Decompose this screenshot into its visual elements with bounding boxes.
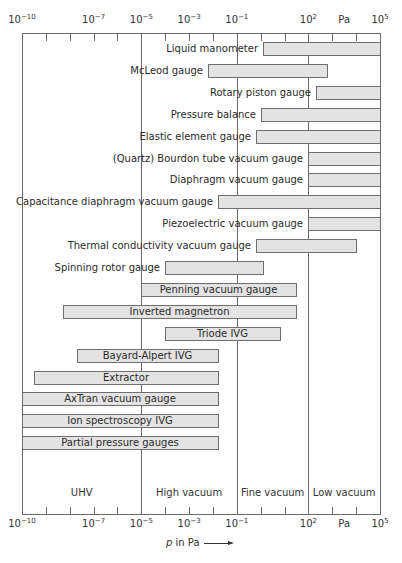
tick-label-exponent: −7 [95,517,105,525]
gauge-label: Partial pressure gauges [61,436,179,450]
vacuum-region-label: High vacuum [156,487,222,498]
tick-label-base: 10 [225,14,238,25]
top-axis-tick [356,34,357,41]
bottom-axis-tick [94,507,95,514]
bottom-tick-label: 10−1 [225,518,248,529]
gauge-range-bar [256,130,381,144]
top-tick-label: Pa [338,14,350,25]
vacuum-gauge-range-chart: 10−1010−710−510−310−1102Pa105 10−1010−71… [0,0,402,563]
tick-label-exponent: −1 [238,517,248,525]
tick-label-base: 10 [225,518,238,529]
top-tick-label: 10−10 [8,14,36,25]
tick-label-base: 10 [130,518,143,529]
top-axis-line [22,33,381,34]
gauge-label: Ion spectroscopy IVG [67,414,173,428]
bottom-axis-tick [46,507,47,514]
x-axis-arrow-shaft [204,543,229,544]
tick-label-exponent: 2 [313,517,317,525]
gauge-range-bar [308,173,381,187]
tick-label-base: 10 [300,518,313,529]
x-axis-arrow-icon [228,541,234,545]
bottom-axis-tick [356,507,357,514]
vacuum-region-label: UHV [71,487,93,498]
top-axis-tick [332,34,333,41]
bottom-tick-label: Pa [338,518,350,529]
gauge-label: McLeod gauge [130,64,203,78]
top-axis-tick [94,34,95,41]
gauge-range-bar [165,261,264,275]
gauge-range-bar [316,86,381,100]
tick-label-exponent: −5 [143,517,153,525]
bottom-axis-line [22,514,381,515]
x-axis-title-unit: in Pa [172,537,199,548]
tick-label-base: 10 [8,518,21,529]
gauge-range-bar [218,195,381,209]
tick-label-base: 10 [300,14,313,25]
gauge-label: Rotary piston gauge [210,86,311,100]
bottom-tick-label: 10−5 [130,518,153,529]
gauge-label: Thermal conductivity vacuum gauge [68,239,251,253]
x-axis-title: p in Pa [166,537,200,548]
tick-label-base: 10 [178,518,191,529]
tick-label-exponent: 5 [384,517,388,525]
tick-label-exponent: −5 [143,13,153,21]
tick-label-exponent: 5 [384,13,388,21]
top-tick-label: 10−7 [82,14,105,25]
tick-label-exponent: −10 [21,13,36,21]
tick-label-base: 10 [130,14,143,25]
bottom-tick-label: 102 [300,518,317,529]
top-tick-label: 10−1 [225,14,248,25]
tick-label-base: 10 [82,14,95,25]
top-tick-label: 10−3 [178,14,201,25]
gauge-label: Spinning rotor gauge [55,261,160,275]
tick-label-base: 10 [371,518,384,529]
gauge-label: (Quartz) Bourdon tube vacuum gauge [113,152,303,166]
gauge-range-bar [308,217,381,231]
bottom-axis-tick [261,507,262,514]
tick-label-base: 10 [82,518,95,529]
gauge-label: Triode IVG [197,327,248,341]
top-tick-label: 102 [300,14,317,25]
tick-label-exponent: −1 [238,13,248,21]
gauge-label: Penning vacuum gauge [160,283,278,297]
bottom-tick-label: 105 [371,518,388,529]
gauge-label: Bayard-Alpert IVG [103,349,193,363]
bottom-tick-label: 10−3 [178,518,201,529]
vacuum-region-label: Low vacuum [313,487,376,498]
gauge-range-bar [256,239,357,253]
gauge-label: Elastic element gauge [139,130,251,144]
bottom-axis-tick [213,507,214,514]
bottom-tick-label: 10−10 [8,518,36,529]
bottom-axis-tick [332,507,333,514]
tick-label-exponent: −3 [190,13,200,21]
gauge-label: Inverted magnetron [129,305,229,319]
top-axis-tick [117,34,118,41]
gauge-range-bar [208,64,328,78]
top-axis-tick [213,34,214,41]
tick-label-base: Pa [338,14,350,25]
bottom-tick-label: 10−7 [82,518,105,529]
tick-label-exponent: −3 [190,517,200,525]
tick-label-base: Pa [338,518,350,529]
tick-label-base: 10 [8,14,21,25]
top-axis-tick [189,34,190,41]
vacuum-region-label: Fine vacuum [241,487,304,498]
gauge-label: Diaphragm vacuum gauge [170,173,303,187]
gauge-range-bar [263,42,381,56]
top-axis-tick [70,34,71,41]
top-tick-label: 105 [371,14,388,25]
top-axis-tick [165,34,166,41]
tick-label-exponent: 2 [313,13,317,21]
bottom-axis-tick [189,507,190,514]
bottom-axis-tick [70,507,71,514]
gauge-range-bar [261,108,381,122]
region-divider-line [308,33,309,514]
tick-label-base: 10 [178,14,191,25]
gauge-label: AxTran vacuum gauge [64,392,176,406]
tick-label-base: 10 [371,14,384,25]
gauge-label: Pressure balance [171,108,256,122]
bottom-axis-tick [117,507,118,514]
bottom-axis-tick [165,507,166,514]
top-axis-tick [261,34,262,41]
right-frame-line [380,33,381,514]
